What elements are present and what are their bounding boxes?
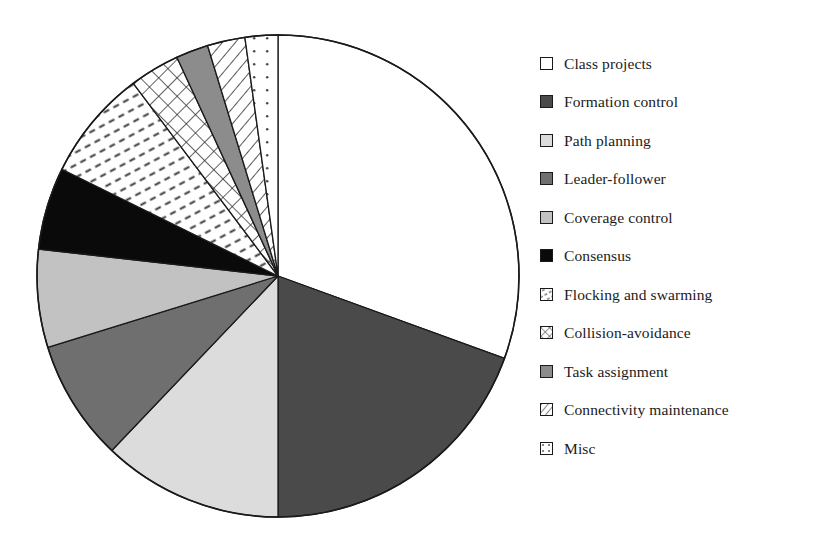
- chart-legend: Class projects Formation control Path pl…: [540, 44, 826, 514]
- legend-item-path-planning[interactable]: Path planning: [540, 121, 826, 160]
- legend-swatch-consensus: [540, 249, 553, 262]
- legend-swatch-coverage-control: [540, 211, 553, 224]
- legend-label-connectivity-maintenance: Connectivity maintenance: [564, 402, 729, 418]
- legend-swatch-collision-avoidance: [540, 326, 553, 339]
- legend-item-leader-follower[interactable]: Leader-follower: [540, 160, 826, 199]
- legend-item-class-projects[interactable]: Class projects: [540, 44, 826, 83]
- legend-item-connectivity-maintenance[interactable]: Connectivity maintenance: [540, 391, 826, 430]
- legend-swatch-connectivity-maintenance: [540, 403, 553, 416]
- legend-label-flocking-and-swarming: Flocking and swarming: [564, 287, 712, 303]
- legend-item-flocking-and-swarming[interactable]: Flocking and swarming: [540, 275, 826, 314]
- legend-label-task-assignment: Task assignment: [564, 364, 668, 380]
- legend-label-leader-follower: Leader-follower: [564, 171, 666, 187]
- pie-chart-svg: [30, 22, 530, 530]
- legend-item-coverage-control[interactable]: Coverage control: [540, 198, 826, 237]
- legend-label-formation-control: Formation control: [564, 94, 678, 110]
- legend-label-misc: Misc: [564, 441, 595, 457]
- legend-swatch-flocking-and-swarming: [540, 288, 553, 301]
- legend-swatch-path-planning: [540, 134, 553, 147]
- legend-swatch-leader-follower: [540, 172, 553, 185]
- legend-swatch-task-assignment: [540, 365, 553, 378]
- legend-label-class-projects: Class projects: [564, 56, 652, 72]
- legend-item-consensus[interactable]: Consensus: [540, 237, 826, 276]
- legend-item-task-assignment[interactable]: Task assignment: [540, 352, 826, 391]
- legend-label-path-planning: Path planning: [564, 133, 651, 149]
- legend-label-coverage-control: Coverage control: [564, 210, 673, 226]
- pie-chart-area: [30, 22, 530, 530]
- pie-slices-group: [37, 35, 519, 517]
- legend-item-collision-avoidance[interactable]: Collision-avoidance: [540, 314, 826, 353]
- legend-item-formation-control[interactable]: Formation control: [540, 83, 826, 122]
- pie-chart-figure: Class projects Formation control Path pl…: [0, 0, 826, 546]
- legend-label-collision-avoidance: Collision-avoidance: [564, 325, 691, 341]
- legend-item-misc[interactable]: Misc: [540, 429, 826, 468]
- legend-swatch-class-projects: [540, 57, 553, 70]
- legend-swatch-formation-control: [540, 95, 553, 108]
- legend-swatch-misc: [540, 442, 553, 455]
- legend-label-consensus: Consensus: [564, 248, 631, 264]
